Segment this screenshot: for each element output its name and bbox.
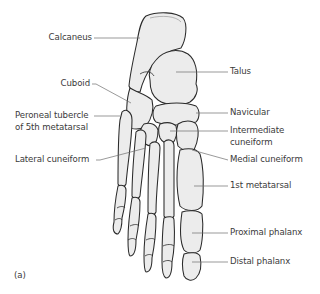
- label-distal-phalanx: Distal phalanx: [230, 256, 290, 267]
- label-calcaneus: Calcaneus: [14, 32, 92, 43]
- label-lateral-cuneiform: Lateral cuneiform: [15, 154, 89, 165]
- label-talus: Talus: [230, 66, 251, 77]
- panel-label: (a): [14, 270, 26, 281]
- label-medial-cuneiform: Medial cuneiform: [230, 154, 303, 165]
- label-first-metatarsal: 1st metatarsal: [230, 180, 291, 191]
- label-intermediate-cuneiform-line2: cuneiform: [230, 137, 272, 148]
- label-cuboid: Cuboid: [30, 78, 90, 89]
- label-intermediate-cuneiform: Intermediate: [230, 125, 284, 136]
- foot-skeleton-diagram: Calcaneus Cuboid Peroneal tubercle of 5t…: [0, 0, 320, 294]
- label-proximal-phalanx: Proximal phalanx: [230, 227, 302, 238]
- label-peroneal-tubercle: Peroneal tubercle: [15, 110, 89, 121]
- label-navicular: Navicular: [230, 107, 270, 118]
- label-peroneal-tubercle-line2: of 5th metatarsal: [15, 122, 88, 133]
